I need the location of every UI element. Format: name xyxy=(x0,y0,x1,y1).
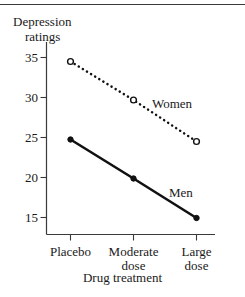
data-point-women-large-dose xyxy=(194,139,200,145)
series-label-men: Men xyxy=(169,186,193,199)
x-tick-label-placebo: Placebo xyxy=(38,245,103,259)
series-label-women: Women xyxy=(152,97,192,110)
x-tick-label-moderate-dose: Moderate dose xyxy=(101,245,166,273)
data-point-men-placebo xyxy=(68,137,73,142)
data-point-women-placebo xyxy=(68,59,74,65)
chart-figure: Depression ratings 35 30 25 20 15 Wome xyxy=(0,0,245,297)
data-point-women-moderate-dose xyxy=(131,97,137,103)
x-tick-label-large-dose-line1: Large xyxy=(164,245,229,259)
x-tick-label-placebo-line1: Placebo xyxy=(38,245,103,259)
x-axis-title: Drug treatment xyxy=(0,271,245,285)
x-tick-label-moderate-dose-line1: Moderate xyxy=(101,245,166,259)
data-point-men-moderate-dose xyxy=(131,176,136,181)
x-tick-label-large-dose: Large dose xyxy=(164,245,229,273)
data-point-men-large-dose xyxy=(194,215,199,220)
